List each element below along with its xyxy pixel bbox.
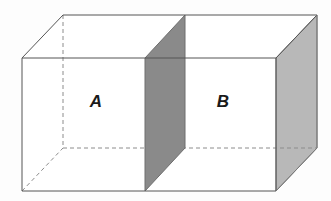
compartment-label-b: B [217, 92, 229, 111]
compartment-label-a: A [89, 92, 102, 111]
diagram-container: A B [0, 0, 331, 201]
box-diagram-svg: A B [0, 0, 331, 201]
